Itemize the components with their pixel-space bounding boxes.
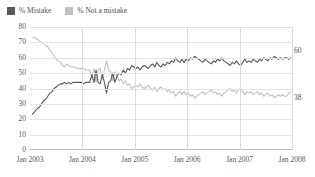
x-axis-tick-label: Jan 2004 (69, 155, 96, 164)
x-axis-tick-label: Jan 2005 (121, 155, 148, 164)
y-axis-tick-label: 40 (2, 85, 26, 93)
legend-item-mistake: % Mistake (7, 7, 51, 15)
x-axis-tick-label: Jan 2006 (174, 155, 201, 164)
line-mistake (32, 56, 291, 114)
legend-item-not-mistake: % Not a mistake (65, 7, 127, 15)
gridline-vertical (82, 27, 83, 150)
y-axis-tick-label: 0 (2, 146, 26, 154)
legend-label-not-mistake: % Not a mistake (77, 7, 127, 15)
y-axis-tick-label: 60 (2, 54, 26, 62)
gridline-vertical (292, 27, 293, 150)
gridline-horizontal (30, 135, 292, 136)
y-axis-tick-label: 80 (2, 23, 26, 31)
y-axis-tick-label: 20 (2, 115, 26, 123)
legend-swatch-not-mistake-icon (65, 7, 73, 15)
gridline-vertical (240, 27, 241, 150)
y-axis-tick-label: 30 (2, 100, 26, 108)
gridline-vertical (135, 27, 136, 150)
x-axis-tick-label: Jan 2007 (226, 155, 253, 164)
gridline-horizontal (30, 58, 292, 59)
x-axis: Jan 2003Jan 2004Jan 2005Jan 2006Jan 2007… (0, 155, 315, 169)
gridline-horizontal (30, 89, 292, 90)
y-axis-tick-label: 50 (2, 69, 26, 77)
gridline-horizontal (30, 119, 292, 120)
y-axis-tick-label: 70 (2, 38, 26, 46)
x-axis-tick-label: Jan 2008 (279, 155, 306, 164)
y-axis-tick-label: 10 (2, 131, 26, 139)
y-axis: 01020304050607080 (0, 27, 26, 150)
chart-legend: % Mistake % Not a mistake (7, 4, 127, 17)
gridline-vertical (187, 27, 188, 150)
end-label-not-mistake: 38 (294, 94, 302, 102)
gridline-horizontal (30, 104, 292, 105)
gridline-horizontal (30, 73, 292, 74)
chart-container: % Mistake % Not a mistake 01020304050607… (0, 0, 315, 177)
legend-swatch-mistake-icon (7, 7, 15, 15)
legend-label-mistake: % Mistake (19, 7, 51, 15)
plot-area (30, 27, 292, 150)
end-label-mistake: 60 (294, 47, 302, 55)
gridline-horizontal (30, 27, 292, 28)
x-axis-tick-label: Jan 2003 (17, 155, 44, 164)
gridline-horizontal (30, 42, 292, 43)
